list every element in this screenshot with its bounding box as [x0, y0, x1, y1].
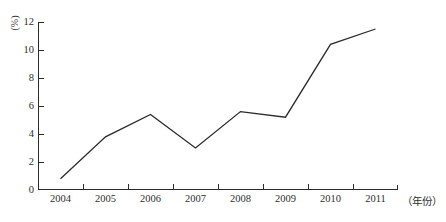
- x-tick-mark: [128, 184, 129, 189]
- data-series-line: [38, 22, 398, 190]
- x-tick-label: 2009: [275, 193, 296, 204]
- y-tick-label: 8: [18, 73, 34, 84]
- x-axis-unit-label: （年份）: [402, 193, 442, 208]
- x-tick-label: 2008: [230, 193, 251, 204]
- x-tick-label: 2006: [140, 193, 161, 204]
- chart-figure: (%) 024681012 20042005200620072008200920…: [0, 0, 446, 222]
- y-tick-label: 0: [18, 185, 34, 196]
- y-tick-mark: [39, 22, 44, 23]
- x-tick-mark: [83, 184, 84, 189]
- y-tick-mark: [39, 78, 44, 79]
- x-tick-mark: [308, 184, 309, 189]
- plot-area: [38, 22, 398, 190]
- y-tick-label: 6: [18, 101, 34, 112]
- y-tick-mark: [39, 162, 44, 163]
- x-tick-mark: [263, 184, 264, 189]
- y-axis-tick-labels: 024681012: [16, 0, 34, 222]
- y-tick-mark: [39, 134, 44, 135]
- series-polyline: [61, 29, 376, 179]
- y-tick-mark: [39, 50, 44, 51]
- x-tick-mark: [218, 184, 219, 189]
- x-tick-label: 2004: [50, 193, 71, 204]
- x-tick-mark: [353, 184, 354, 189]
- x-tick-label: 2011: [365, 193, 386, 204]
- x-tick-label: 2005: [95, 193, 116, 204]
- x-tick-label: 2010: [320, 193, 341, 204]
- x-tick-mark: [173, 184, 174, 189]
- x-tick-label: 2007: [185, 193, 206, 204]
- y-tick-label: 10: [18, 45, 34, 56]
- x-axis-tick-labels: 20042005200620072008200920102011: [38, 193, 398, 209]
- y-tick-label: 4: [18, 129, 34, 140]
- y-tick-label: 12: [18, 17, 34, 28]
- y-tick-mark: [39, 106, 44, 107]
- y-tick-label: 2: [18, 157, 34, 168]
